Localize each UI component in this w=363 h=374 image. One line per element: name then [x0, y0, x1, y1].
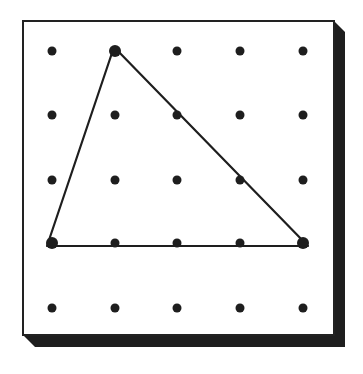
peg-r2-c2 [173, 176, 182, 185]
peg-r4-c2 [173, 304, 182, 313]
board-shadow-bottom [23, 335, 345, 347]
peg-r1-c3 [236, 111, 245, 120]
vertex-peg-0 [109, 45, 121, 57]
peg-r4-c1 [111, 304, 120, 313]
peg-r4-c3 [236, 304, 245, 313]
peg-r1-c0 [48, 111, 57, 120]
peg-r1-c4 [299, 111, 308, 120]
peg-r0-c0 [48, 47, 57, 56]
peg-r2-c1 [111, 176, 120, 185]
peg-r0-c3 [236, 47, 245, 56]
vertex-peg-1 [46, 237, 58, 249]
peg-r4-c0 [48, 304, 57, 313]
peg-r2-c0 [48, 176, 57, 185]
geoboard-board [23, 21, 345, 347]
peg-r0-c2 [173, 47, 182, 56]
board-shadow-right [334, 21, 345, 347]
vertex-peg-2 [297, 237, 309, 249]
peg-r2-c4 [299, 176, 308, 185]
geoboard-figure [0, 0, 363, 374]
peg-r1-c1 [111, 111, 120, 120]
peg-r0-c4 [299, 47, 308, 56]
peg-r4-c4 [299, 304, 308, 313]
